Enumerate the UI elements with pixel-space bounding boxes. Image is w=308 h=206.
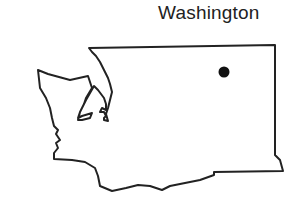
state-outline: [38, 45, 283, 191]
location-marker-icon: [219, 67, 230, 78]
washington-state-map: [0, 0, 308, 206]
